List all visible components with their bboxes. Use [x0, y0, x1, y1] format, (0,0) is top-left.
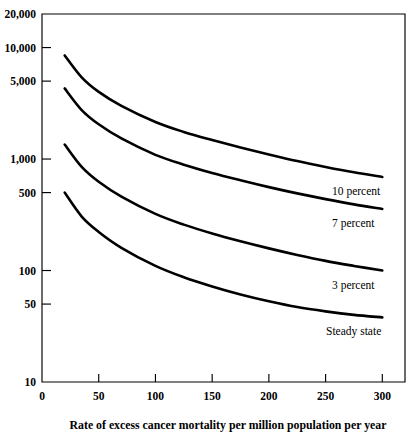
y-tick-label-10: 10 [25, 376, 37, 388]
series-label-steady-state: Steady state [326, 325, 381, 338]
x-tick-label-300: 300 [374, 390, 392, 402]
x-tick-label-250: 250 [317, 390, 335, 402]
series-label-10-percent: 10 percent [332, 185, 381, 198]
series-label-7-percent: 7 percent [332, 217, 375, 230]
y-tick-label-100: 100 [19, 265, 37, 277]
x-tick-label-200: 200 [260, 390, 278, 402]
x-axis-title: Rate of excess cancer mortality per mill… [70, 418, 387, 432]
excess-cancer-mortality-line-chart: 10501005001,0005,00010,00020,000 0501001… [0, 0, 414, 434]
y-tick-label-10000: 10,000 [4, 42, 36, 54]
y-tick-label-20000: 20,000 [4, 8, 36, 20]
series-label-3-percent: 3 percent [332, 279, 375, 292]
x-tick-label-100: 100 [147, 390, 165, 402]
y-tick-label-500: 500 [19, 187, 37, 199]
y-tick-label-50: 50 [25, 298, 37, 310]
y-tick-label-1000: 1,000 [10, 153, 36, 165]
x-tick-label-50: 50 [93, 390, 105, 402]
y-tick-label-5000: 5,000 [10, 75, 36, 87]
chart-figure: 10501005001,0005,00010,00020,000 0501001… [0, 0, 414, 434]
x-tick-label-0: 0 [39, 390, 45, 402]
x-tick-label-150: 150 [204, 390, 222, 402]
